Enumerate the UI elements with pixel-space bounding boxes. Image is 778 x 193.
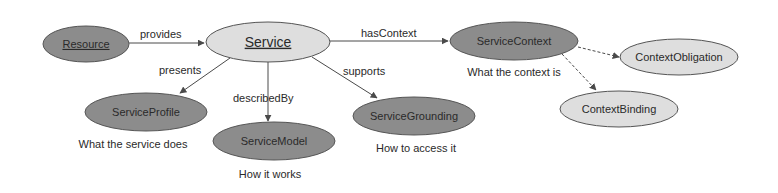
context-binding-dashed-arrow [562, 54, 596, 90]
edge-has-context: hasContext [330, 27, 448, 41]
edge-label-presents: presents [159, 64, 202, 76]
node-label-service-model: ServiceModel [241, 135, 308, 147]
node-context-obligation: ContextObligation [620, 39, 738, 75]
edge-label-provides: provides [140, 28, 182, 40]
node-service-profile: ServiceProfile [85, 93, 207, 131]
node-service-grounding: ServiceGrounding [353, 97, 475, 135]
caption-service-grounding: How to access it [376, 142, 456, 154]
node-service-context: ServiceContext [450, 22, 578, 60]
edge-context-obligation [578, 47, 619, 57]
node-service: Service [206, 22, 330, 62]
node-label-context-binding: ContextBinding [582, 103, 657, 115]
edge-label-described-by: describedBy [233, 92, 294, 104]
edge-context-binding [562, 54, 596, 90]
caption-service-profile: What the service does [79, 138, 188, 150]
node-label-resource: Resource [62, 38, 109, 50]
edge-presents: presents [159, 58, 230, 93]
edge-label-supports: supports [343, 65, 386, 77]
service-ontology-diagram: provides hasContext presents describedBy… [0, 0, 778, 193]
caption-service-model: How it works [239, 168, 302, 180]
supports-arrow [312, 57, 377, 98]
edge-label-has-context: hasContext [361, 27, 417, 39]
edge-supports: supports [312, 57, 386, 98]
edge-described-by: describedBy [233, 62, 294, 121]
node-label-service: Service [245, 34, 292, 50]
node-label-context-obligation: ContextObligation [635, 51, 722, 63]
node-label-service-grounding: ServiceGrounding [370, 110, 458, 122]
node-service-model: ServiceModel [213, 122, 335, 160]
edge-provides: provides [129, 28, 204, 43]
node-resource: Resource [43, 26, 129, 62]
node-label-service-context: ServiceContext [477, 35, 552, 47]
node-context-binding: ContextBinding [560, 91, 678, 127]
caption-service-context: What the context is [467, 66, 561, 78]
context-obligation-dashed-arrow [578, 47, 619, 57]
node-label-service-profile: ServiceProfile [112, 106, 180, 118]
